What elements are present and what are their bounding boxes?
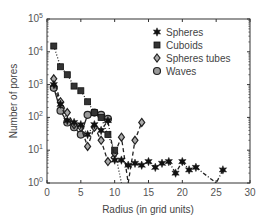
y-tick-label: 101 — [28, 143, 43, 155]
legend-label: Spheres tubes — [166, 53, 231, 64]
chart: 051015202530100101102103104105 SpheresCu… — [0, 0, 267, 223]
legend-item: Spheres tubes — [154, 53, 231, 64]
x-tick-label: 30 — [244, 187, 256, 198]
y-tick-label: 100 — [28, 176, 43, 188]
legend-label: Waves — [166, 66, 196, 77]
x-tick-label: 10 — [109, 187, 121, 198]
legend-item: Spheres — [153, 27, 203, 38]
y-tick-label: 105 — [28, 12, 43, 24]
y-axis-label: Number of pores — [8, 64, 19, 138]
legend-item: Cuboids — [154, 40, 203, 51]
x-tick-label: 15 — [143, 187, 155, 198]
legend-label: Cuboids — [166, 40, 203, 51]
y-tick-label: 102 — [28, 110, 43, 122]
plot-area — [50, 43, 227, 183]
x-tick-label: 20 — [177, 187, 189, 198]
x-axis-label: Radius (in grid units) — [102, 204, 194, 215]
y-tick-label: 104 — [28, 45, 43, 57]
legend-item: Waves — [154, 66, 197, 77]
x-tick-label: 0 — [44, 187, 50, 198]
legend: SpheresCuboidsSpheres tubesWaves — [153, 27, 230, 77]
x-tick-label: 25 — [211, 187, 223, 198]
x-tick-label: 5 — [78, 187, 84, 198]
y-tick-label: 103 — [28, 78, 43, 90]
legend-label: Spheres — [166, 27, 203, 38]
